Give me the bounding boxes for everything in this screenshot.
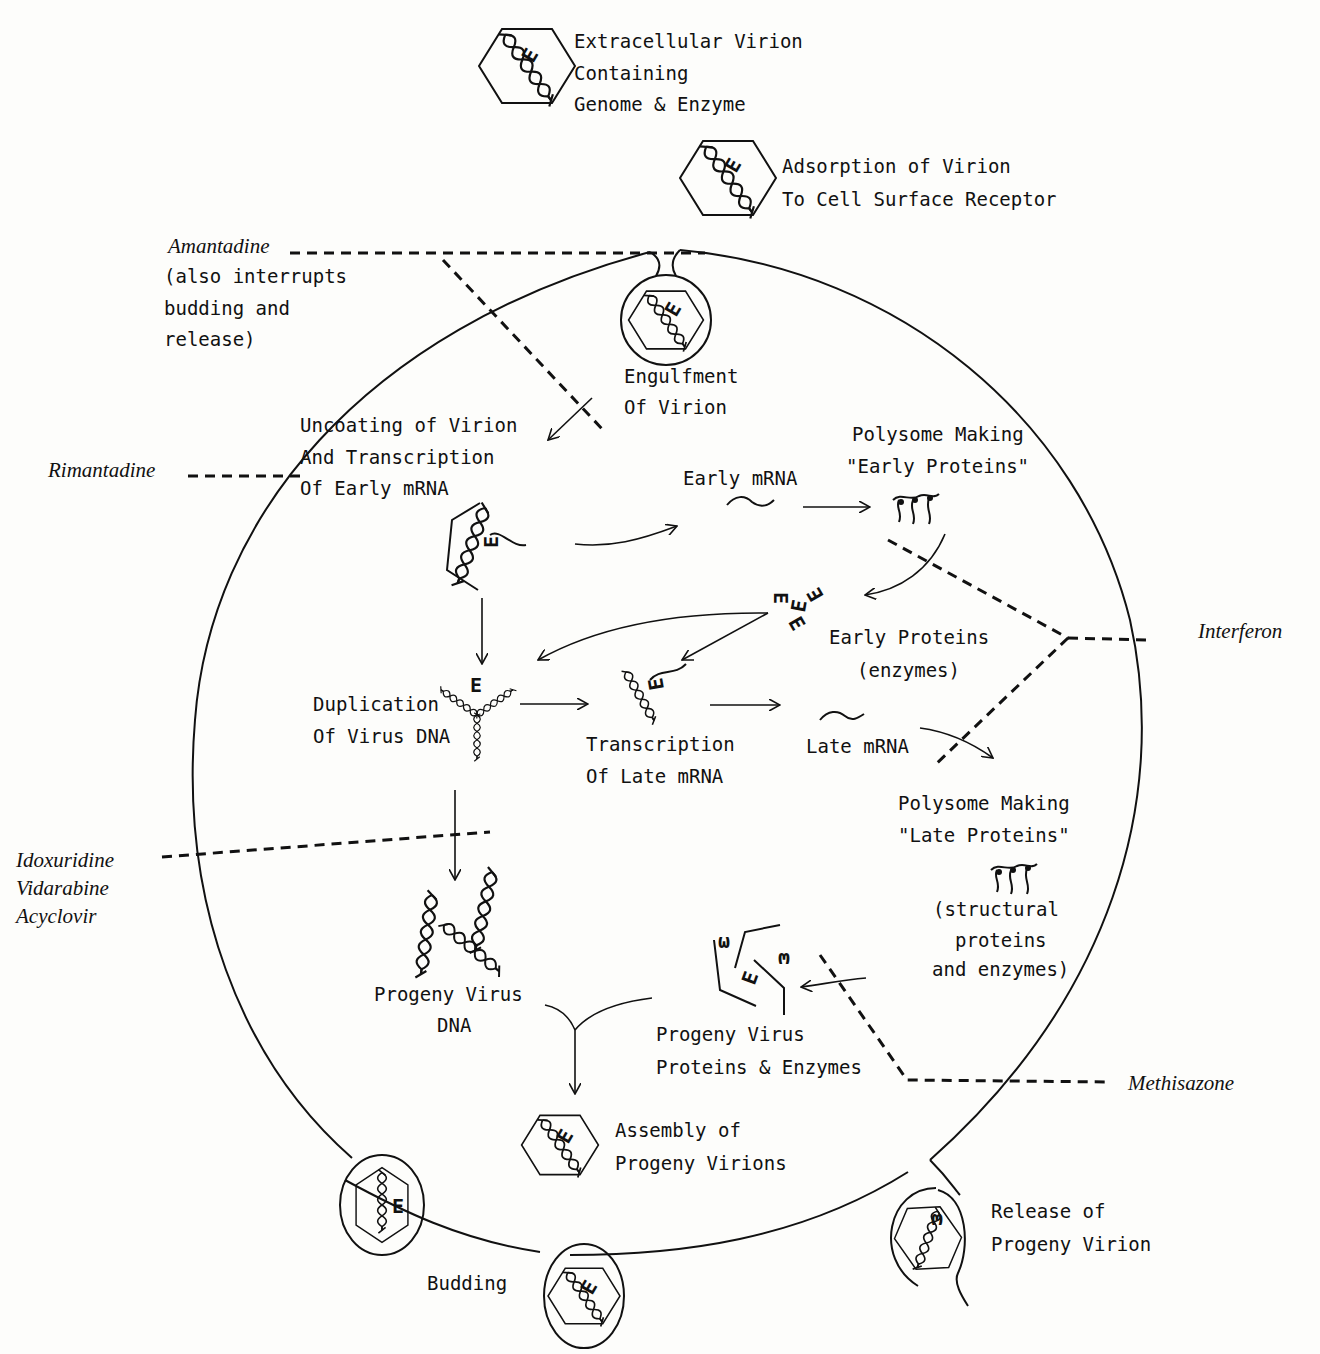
- progeny-dna-label: Progeny Virus DNA: [374, 983, 523, 1036]
- svg-text:Extracellular Virion: Extracellular Virion: [574, 30, 803, 52]
- svg-text:Progeny Virions: Progeny Virions: [615, 1152, 787, 1174]
- late-mrna-label: Late mRNA: [806, 735, 910, 757]
- duplication-label: Duplication Of Virus DNA: [313, 693, 451, 747]
- dna-duplication-icon: E: [437, 673, 516, 761]
- uncoating-label: Uncoating of Virion And Transcription Of…: [300, 414, 517, 499]
- svg-text:Transcription: Transcription: [586, 733, 735, 755]
- dna-inhibitor-block-line: [162, 832, 490, 857]
- interferon-block-line: [888, 540, 1150, 765]
- svg-text:release): release): [164, 328, 256, 350]
- svg-text:Early Proteins: Early Proteins: [829, 626, 989, 648]
- svg-text:(structural: (structural: [933, 898, 1059, 920]
- svg-text:Engulfment: Engulfment: [624, 365, 738, 387]
- svg-text:proteins: proteins: [955, 929, 1047, 951]
- polysome-early-icon: [893, 494, 939, 524]
- interferon-label: Interferon: [1197, 619, 1282, 643]
- extracellular-virion-icon: E: [479, 28, 575, 107]
- arrow-early-proteins-to-transcription: [682, 613, 768, 660]
- svg-text:E: E: [802, 583, 829, 605]
- adsorbed-virion-icon: E: [680, 140, 776, 219]
- arrow-uncoating-to-early-mrna: [575, 526, 677, 545]
- mrna-icon: [727, 497, 774, 506]
- svg-text:ω: ω: [778, 948, 790, 972]
- budding-virion-bottom-icon: E: [544, 1244, 624, 1348]
- progeny-dna-icon: [414, 867, 505, 979]
- svg-text:Genome & Enzyme: Genome & Enzyme: [574, 93, 746, 115]
- adsorption-label: Adsorption of Virion To Cell Surface Rec…: [782, 155, 1057, 210]
- svg-text:E: E: [470, 673, 482, 697]
- svg-text:Of Early mRNA: Of Early mRNA: [300, 477, 449, 499]
- arrow-engulfment-to-uncoating: [548, 398, 592, 440]
- svg-text:Polysome Making: Polysome Making: [898, 792, 1070, 814]
- svg-text:(also interrupts: (also interrupts: [164, 265, 347, 287]
- svg-text:"Late Proteins": "Late Proteins": [898, 824, 1070, 846]
- svg-text:Release of: Release of: [991, 1200, 1105, 1222]
- early-mrna-label: Early mRNA: [683, 467, 798, 489]
- svg-text:Of Virion: Of Virion: [624, 396, 727, 418]
- svg-text:ω: ω: [931, 1209, 943, 1233]
- budding-label: Budding: [427, 1272, 507, 1294]
- svg-text:Progeny Virus: Progeny Virus: [374, 983, 523, 1005]
- svg-text:Uncoating of Virion: Uncoating of Virion: [300, 414, 517, 436]
- late-mrna-icon: [820, 712, 864, 720]
- release-label: Release of Progeny Virion: [991, 1200, 1151, 1255]
- engulfed-virion-icon: E: [621, 275, 711, 365]
- svg-text:E: E: [737, 968, 764, 988]
- budding-virion-left-icon: E: [340, 1155, 424, 1255]
- svg-text:(enzymes): (enzymes): [857, 659, 960, 681]
- viral-replication-diagram: E Extracellular Virion Containing Genome…: [0, 0, 1320, 1354]
- svg-text:Duplication: Duplication: [313, 693, 439, 715]
- late-transcription-icon: E: [621, 664, 686, 725]
- svg-text:To Cell Surface Receptor: To Cell Surface Receptor: [782, 188, 1057, 210]
- svg-text:and enzymes): and enzymes): [932, 958, 1069, 980]
- amantadine-label: Amantadine (also interrupts budding and …: [164, 234, 347, 350]
- svg-text:Of Virus DNA: Of Virus DNA: [313, 725, 451, 747]
- engulfment-label: Engulfment Of Virion: [624, 365, 738, 418]
- arrow-to-assembly: [545, 998, 652, 1094]
- svg-text:E: E: [392, 1194, 404, 1218]
- methisazone-label: Methisazone: [1127, 1071, 1234, 1095]
- assembly-virion-icon: E: [522, 1115, 599, 1178]
- svg-text:Progeny Virion: Progeny Virion: [991, 1233, 1151, 1255]
- early-proteins-icon: E E E E: [769, 583, 829, 634]
- svg-text:Assembly of: Assembly of: [615, 1119, 741, 1141]
- assembly-label: Assembly of Progeny Virions: [615, 1119, 787, 1174]
- svg-text:And Transcription: And Transcription: [300, 446, 494, 468]
- svg-text:Proteins & Enzymes: Proteins & Enzymes: [656, 1056, 862, 1078]
- early-proteins-label: Early Proteins (enzymes): [829, 626, 989, 681]
- svg-text:Adsorption of Virion: Adsorption of Virion: [782, 155, 1011, 177]
- dna-inhibitors-label: Idoxuridine Vidarabine Acyclovir: [14, 848, 114, 928]
- svg-text:Acyclovir: Acyclovir: [14, 904, 97, 928]
- transcription-late-label: Transcription Of Late mRNA: [586, 733, 735, 787]
- release-virion-icon: ω: [882, 1188, 972, 1306]
- svg-text:E: E: [643, 676, 669, 692]
- svg-text:E: E: [783, 612, 810, 634]
- arrow-late-proteins-to-progeny-proteins: [801, 978, 866, 987]
- progeny-proteins-icon: ω ω E: [714, 925, 790, 1015]
- svg-text:E: E: [660, 298, 687, 320]
- arrow-early-proteins-to-duplication: [538, 613, 768, 660]
- svg-text:"Early Proteins": "Early Proteins": [846, 455, 1029, 477]
- polysome-early-label: Polysome Making "Early Proteins": [846, 423, 1029, 477]
- polysome-late-label: Polysome Making "Late Proteins": [898, 792, 1070, 846]
- svg-text:Polysome Making: Polysome Making: [852, 423, 1024, 445]
- svg-text:budding and: budding and: [164, 297, 290, 319]
- svg-text:DNA: DNA: [437, 1014, 472, 1036]
- late-proteins-note: (structural proteins and enzymes): [932, 898, 1069, 980]
- svg-text:E: E: [479, 536, 503, 548]
- svg-text:Containing: Containing: [574, 62, 688, 84]
- svg-text:Idoxuridine: Idoxuridine: [15, 848, 114, 872]
- extracellular-virion-label: Extracellular Virion Containing Genome &…: [574, 30, 803, 115]
- polysome-late-icon: [991, 864, 1037, 894]
- svg-text:Of Late mRNA: Of Late mRNA: [586, 765, 724, 787]
- uncoating-virion-icon: E: [447, 502, 526, 590]
- rimantadine-label: Rimantadine: [47, 458, 155, 482]
- progeny-proteins-label: Progeny Virus Proteins & Enzymes: [656, 1023, 862, 1078]
- svg-text:Vidarabine: Vidarabine: [16, 876, 109, 900]
- svg-text:Amantadine: Amantadine: [166, 234, 269, 258]
- svg-text:Progeny Virus: Progeny Virus: [656, 1023, 805, 1045]
- svg-text:ω: ω: [718, 929, 730, 953]
